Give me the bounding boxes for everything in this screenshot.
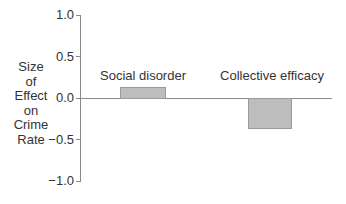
y-axis-label-line: Crime: [12, 118, 50, 133]
y-axis-label-line: Effect: [12, 89, 50, 104]
bar-social-disorder: [120, 87, 166, 99]
y-tick-mark: [76, 15, 81, 16]
y-axis-label-line: of: [12, 75, 50, 90]
y-tick-label: 0.0: [56, 90, 74, 105]
y-tick-mark: [76, 56, 81, 57]
y-tick-mark: [76, 181, 81, 182]
zero-baseline: [80, 98, 332, 99]
y-tick-label: 0.5: [56, 49, 74, 64]
y-axis-label-line: Size: [12, 60, 50, 75]
category-label-social-disorder: Social disorder: [92, 68, 194, 83]
y-tick-mark: [76, 139, 81, 140]
y-axis-label-line: Rate: [12, 133, 50, 148]
y-tick-label: 1.0: [56, 7, 74, 22]
category-label-collective-efficacy: Collective efficacy: [220, 68, 324, 83]
y-tick-label: −1.0: [48, 173, 74, 188]
y-axis-label-line: on: [12, 104, 50, 119]
y-axis-label: Size of Effect on Crime Rate: [12, 60, 50, 147]
y-tick-label: −0.5: [48, 132, 74, 147]
bar-collective-efficacy: [248, 98, 292, 129]
